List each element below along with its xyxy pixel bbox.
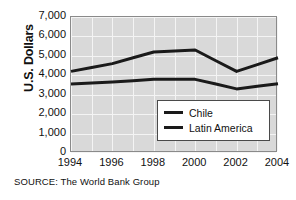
y-tick-label: 4,000 — [22, 68, 66, 79]
series-line — [71, 50, 278, 71]
x-tick-label: 1998 — [131, 155, 175, 169]
legend-item-latin-america: Latin America — [164, 120, 263, 135]
line-chart-figure: U.S. Dollars 01,0002,0003,0004,0005,0006… — [0, 0, 296, 200]
chart-legend: Chile Latin America — [157, 100, 270, 141]
y-tick-label: 1,000 — [22, 127, 66, 138]
legend-swatch-latin-america — [164, 126, 183, 129]
y-tick-label: 3,000 — [22, 88, 66, 99]
y-axis-tick-labels: 01,0002,0003,0004,0005,0006,0007,000 — [22, 16, 66, 152]
y-tick-label: 5,000 — [22, 49, 66, 60]
series-line — [71, 79, 278, 89]
x-tick-label: 1994 — [48, 155, 92, 169]
x-tick-label: 1996 — [89, 155, 133, 169]
source-note: SOURCE: The World Bank Group — [14, 176, 160, 188]
x-axis-tick-labels: 199419961998200020022004 — [70, 155, 277, 171]
x-tick-label: 2000 — [172, 155, 216, 169]
legend-label-latin-america: Latin America — [189, 122, 253, 134]
legend-label-chile: Chile — [189, 107, 213, 119]
legend-item-chile: Chile — [164, 105, 263, 120]
y-tick-label: 6,000 — [22, 29, 66, 40]
y-tick-label: 7,000 — [22, 10, 66, 21]
x-tick-label: 2004 — [255, 155, 296, 169]
y-tick-label: 2,000 — [22, 107, 66, 118]
legend-swatch-chile — [164, 111, 183, 114]
x-tick-label: 2002 — [214, 155, 258, 169]
